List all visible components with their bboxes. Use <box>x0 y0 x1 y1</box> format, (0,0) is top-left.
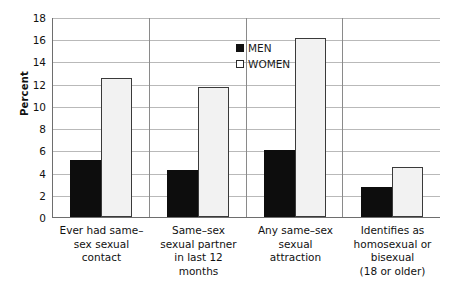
legend-item-women: WOMEN <box>236 56 290 72</box>
category-label-2-line-0: Any same–sex <box>249 224 342 238</box>
category-label-0-line-1: sex sexual <box>55 238 148 252</box>
bar-men-3 <box>361 187 392 217</box>
bar-chart: Percent 18 16 14 12 10 8 6 4 2 0 <box>0 0 451 298</box>
bar-women-3 <box>392 167 423 217</box>
category-label-3-line-1: homosexual or <box>346 238 439 252</box>
bar-women-0 <box>101 78 132 217</box>
category-label-1-line-1: sexual partner <box>152 238 245 252</box>
category-labels: Ever had same– sex sexual contact Same–s… <box>53 224 441 278</box>
category-label-2-line-2: attraction <box>249 251 342 265</box>
legend-swatch-women-icon <box>236 60 244 68</box>
legend-item-men: MEN <box>236 40 290 56</box>
bar-group-0 <box>53 18 150 217</box>
y-tick-0: 0 <box>8 213 46 224</box>
y-tick-2: 2 <box>8 191 46 202</box>
legend-label-women: WOMEN <box>248 56 290 72</box>
category-label-2: Any same–sex sexual attraction <box>247 224 344 278</box>
y-tick-6: 6 <box>8 146 46 157</box>
y-tick-14: 14 <box>8 57 46 68</box>
x-axis-line <box>52 217 440 218</box>
category-label-0-line-0: Ever had same– <box>55 224 148 238</box>
category-label-1-line-3: months <box>152 265 245 279</box>
category-label-2-line-1: sexual <box>249 238 342 252</box>
category-label-0: Ever had same– sex sexual contact <box>53 224 150 278</box>
bar-men-1 <box>167 170 198 217</box>
bar-group-1 <box>150 18 247 217</box>
y-tick-18: 18 <box>8 13 46 24</box>
legend-swatch-men-icon <box>236 44 244 52</box>
bar-men-2 <box>264 150 295 217</box>
y-tick-8: 8 <box>8 124 46 135</box>
category-label-1-line-2: in last 12 <box>152 251 245 265</box>
bar-women-1 <box>198 87 229 217</box>
category-label-3-line-0: Identifies as <box>346 224 439 238</box>
category-label-3-line-2: bisexual <box>346 251 439 265</box>
bar-men-0 <box>70 160 101 217</box>
legend: MEN WOMEN <box>236 40 290 72</box>
y-tick-16: 16 <box>8 35 46 46</box>
category-label-1: Same–sex sexual partner in last 12 month… <box>150 224 247 278</box>
bar-women-2 <box>295 38 326 217</box>
y-tick-12: 12 <box>8 79 46 90</box>
category-label-3: Identifies as homosexual or bisexual (18… <box>344 224 441 278</box>
category-label-0-line-2: contact <box>55 251 148 265</box>
category-label-1-line-0: Same–sex <box>152 224 245 238</box>
y-tick-10: 10 <box>8 102 46 113</box>
plot-area: 18 16 14 12 10 8 6 4 2 0 <box>52 18 440 218</box>
y-tick-4: 4 <box>8 168 46 179</box>
legend-label-men: MEN <box>248 40 272 56</box>
bar-group-3 <box>343 18 440 217</box>
category-label-3-line-3: (18 or older) <box>346 265 439 279</box>
